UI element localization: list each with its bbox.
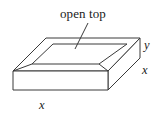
open-top-label: open top — [60, 7, 106, 20]
open-top-box-figure: open top y x x — [0, 0, 163, 118]
dimension-label-x-side: x — [142, 64, 148, 77]
box-front-face — [13, 71, 108, 90]
dimension-label-x-front: x — [39, 99, 45, 112]
dimension-label-y: y — [144, 39, 150, 52]
